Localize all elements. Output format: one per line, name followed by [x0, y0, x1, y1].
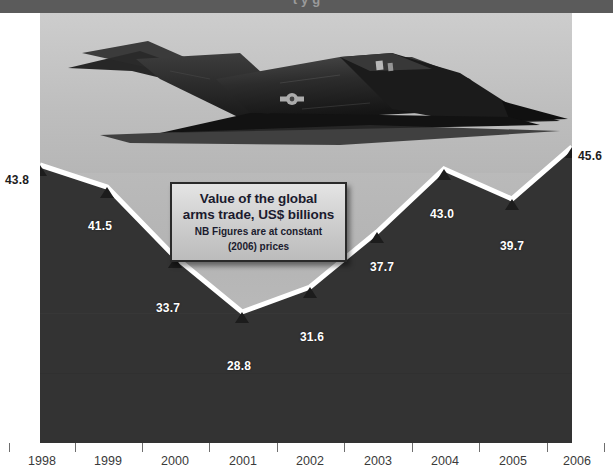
axis-label-2006: 2006: [563, 454, 591, 468]
axis-tick-6: [412, 443, 413, 452]
callout-note-line2: (2006) prices: [172, 241, 345, 253]
data-label-1999: 41.5: [88, 219, 112, 233]
data-label-2005: 39.7: [500, 239, 524, 253]
axis-label-2002: 2002: [296, 454, 324, 468]
slide-canvas: t y g: [0, 0, 613, 473]
axis-tick-1: [75, 443, 76, 452]
axis-label-2001: 2001: [229, 454, 257, 468]
axis-tick-2: [142, 443, 143, 452]
axis-label-2003: 2003: [364, 454, 392, 468]
data-label-2001: 28.8: [227, 359, 251, 373]
callout-title-line2: arms trade, US$ billions: [172, 207, 345, 223]
axis-tick-start: [9, 443, 10, 452]
axis-tick-end: [604, 443, 605, 452]
data-label-2003: 37.7: [370, 260, 394, 274]
callout-note-line1: NB Figures are at constant: [172, 226, 345, 238]
axis-label-1999: 1999: [94, 454, 122, 468]
axis-label-1998: 1998: [28, 454, 56, 468]
x-axis: 1998 1999 2000 2001 2002 2003 2004 2005 …: [0, 443, 613, 473]
axis-label-2004: 2004: [431, 454, 459, 468]
axis-tick-4: [277, 443, 278, 452]
callout-title-line1: Value of the global: [172, 191, 345, 207]
data-label-2004: 43.0: [430, 207, 454, 221]
axis-label-2005: 2005: [499, 454, 527, 468]
axis-tick-5: [344, 443, 345, 452]
data-label-2000: 33.7: [156, 301, 180, 315]
axis-label-2000: 2000: [161, 454, 189, 468]
axis-tick-8: [547, 443, 548, 452]
data-label-2006: 45.6: [578, 149, 602, 163]
data-label-1998: 43.8: [5, 173, 29, 187]
cropped-title-text: t y g: [0, 0, 613, 7]
axis-tick-7: [479, 443, 480, 452]
chart-callout-box: Value of the global arms trade, US$ bill…: [170, 182, 347, 262]
data-label-2002: 31.6: [300, 330, 324, 344]
axis-tick-3: [209, 443, 210, 452]
cropped-title-bar: t y g: [0, 0, 613, 13]
